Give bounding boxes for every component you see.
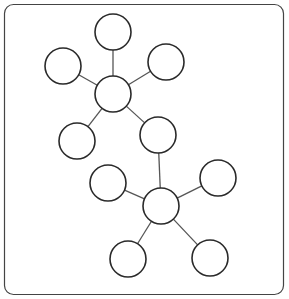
node-n2-upper-left	[90, 165, 126, 201]
node-n1-lower-left	[59, 123, 95, 159]
node-n2-bottom-right	[192, 240, 228, 276]
node-n2-upper-right	[200, 160, 236, 196]
node-n1-right	[148, 44, 184, 80]
web-diagram	[0, 0, 289, 299]
node-n1-top	[95, 14, 131, 50]
node-n1-left	[45, 48, 81, 84]
node-hub2	[143, 188, 179, 224]
node-hub1	[95, 76, 131, 112]
node-n2-bottom-left	[110, 241, 146, 277]
node-n1-lower-right	[140, 117, 176, 153]
